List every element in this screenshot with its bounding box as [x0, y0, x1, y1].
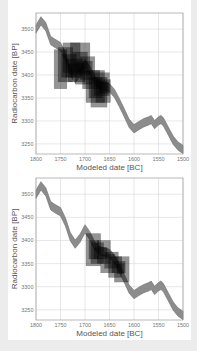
x-tick-label: 1700	[79, 156, 91, 162]
y-tick-label: 3250	[21, 141, 33, 147]
x-tick-label: 1700	[79, 322, 91, 328]
y-tick-label: 3400	[21, 237, 33, 243]
chart-top: 1800175017001650160015501500350034503400…	[10, 13, 189, 172]
x-tick-label: 1500	[177, 156, 189, 162]
y-axis-title: Radiocarbon date [BP]	[10, 43, 19, 124]
x-tick-label: 1600	[128, 322, 140, 328]
x-tick-label: 1650	[103, 156, 115, 162]
figure: 1800175017001650160015501500350034503400…	[0, 0, 197, 351]
y-tick-label: 3500	[21, 191, 33, 197]
x-axis-title: Modeled date [BC]	[76, 329, 142, 338]
y-tick-label: 3350	[21, 95, 33, 101]
sample-box	[99, 82, 109, 93]
sample-boxes	[86, 234, 129, 283]
y-tick-label: 3350	[21, 261, 33, 267]
y-tick-label: 3250	[21, 307, 33, 313]
x-tick-label: 1800	[30, 322, 42, 328]
y-tick-label: 3500	[21, 26, 33, 32]
y-tick-label: 3300	[21, 284, 33, 290]
sample-box	[117, 264, 124, 274]
x-tick-label: 1750	[54, 322, 66, 328]
chart-bottom: 1800175017001650160015501500350034503400…	[10, 178, 189, 338]
y-tick-label: 3400	[21, 72, 33, 78]
x-tick-label: 1550	[152, 322, 164, 328]
y-tick-label: 3450	[21, 49, 33, 55]
x-tick-label: 1600	[128, 156, 140, 162]
x-tick-label: 1650	[103, 322, 115, 328]
sample-boxes	[54, 43, 110, 107]
y-tick-label: 3450	[21, 214, 33, 220]
x-axis-title: Modeled date [BC]	[76, 163, 142, 172]
x-tick-label: 1500	[177, 322, 189, 328]
x-tick-label: 1550	[152, 156, 164, 162]
x-tick-label: 1750	[54, 156, 66, 162]
y-axis-title: Radiocarbon date [BP]	[10, 209, 19, 290]
y-tick-label: 3300	[21, 118, 33, 124]
x-tick-label: 1800	[30, 156, 42, 162]
